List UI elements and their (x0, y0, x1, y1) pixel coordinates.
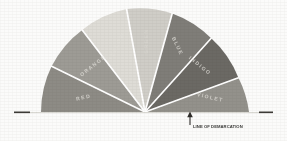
up-arrow-icon (187, 112, 193, 126)
spectrum-chart: RED ORANGE YELLOW GREEN BLUE INDIGO VIOL… (0, 0, 287, 141)
line-of-demarcation-caption: LINE OF DEMARCATION (193, 124, 243, 129)
wedge-label-green: GREEN (143, 28, 149, 54)
spectrum-semicircle-figure: RED ORANGE YELLOW GREEN BLUE INDIGO VIOL… (0, 0, 287, 141)
